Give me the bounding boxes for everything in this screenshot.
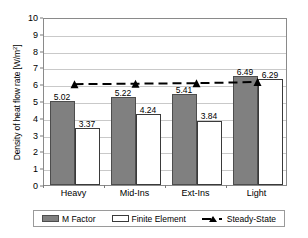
y-axis-tick-label: 8 xyxy=(2,47,38,57)
y-axis-tick-label: 6 xyxy=(2,80,38,90)
x-axis-tick-mark xyxy=(226,185,227,188)
legend-item-steady-state[interactable]: Steady-State xyxy=(202,214,276,224)
legend-item-finite-element[interactable]: Finite Element xyxy=(112,214,186,224)
bar-value-label: 3.84 xyxy=(201,111,218,121)
y-axis-tick-label: 2 xyxy=(2,147,38,157)
bar-value-label: 6.29 xyxy=(262,70,279,80)
y-axis-tick-label: 10 xyxy=(2,13,38,23)
filled-gray-swatch xyxy=(42,215,59,222)
y-axis-tick-label: 0 xyxy=(2,181,38,191)
x-axis-label-mid-ins: Mid-Ins xyxy=(120,188,150,198)
legend-label: Steady-State xyxy=(227,214,276,224)
plot-area: 5.023.375.224.245.413.846.496.29 xyxy=(43,18,287,186)
legend-item-m-factor[interactable]: M Factor xyxy=(42,214,96,224)
bar-value-label: 5.41 xyxy=(176,85,193,95)
dashed-line-triangle-marker xyxy=(202,215,224,223)
y-axis-tick-label: 4 xyxy=(2,114,38,124)
outlined-white-swatch xyxy=(112,215,129,222)
x-axis-tick-mark xyxy=(104,185,105,188)
chart-legend: M FactorFinite ElementSteady-State xyxy=(33,210,285,227)
bar-value-label: 4.24 xyxy=(140,105,157,115)
legend-label: Finite Element xyxy=(132,214,186,224)
x-axis-tick-mark xyxy=(165,185,166,188)
y-axis-tick-label: 7 xyxy=(2,63,38,73)
x-axis-tick-mark xyxy=(43,185,44,188)
x-axis-labels: HeavyMid-InsExt-InsLight xyxy=(43,188,287,204)
bar-value-label: 6.49 xyxy=(237,67,254,77)
x-axis-label-heavy: Heavy xyxy=(61,188,87,198)
x-axis-label-ext-ins: Ext-Ins xyxy=(181,188,209,198)
bar-value-label: 5.22 xyxy=(115,88,132,98)
bar-value-label: 3.37 xyxy=(79,119,96,129)
bar-chart: Density of heat flow rate [W/m2] 0123456… xyxy=(0,0,308,238)
bar-value-label: 5.02 xyxy=(54,92,71,102)
y-axis-tick-label: 5 xyxy=(2,97,38,107)
legend-label: M Factor xyxy=(62,214,96,224)
y-axis-tick-label: 3 xyxy=(2,131,38,141)
x-axis-label-light: Light xyxy=(247,188,267,198)
data-labels-layer: 5.023.375.224.245.413.846.496.29 xyxy=(44,19,286,185)
y-axis-ticks: 012345678910 xyxy=(0,18,43,186)
y-axis-tick-label: 1 xyxy=(2,164,38,174)
y-axis-tick-label: 9 xyxy=(2,30,38,40)
